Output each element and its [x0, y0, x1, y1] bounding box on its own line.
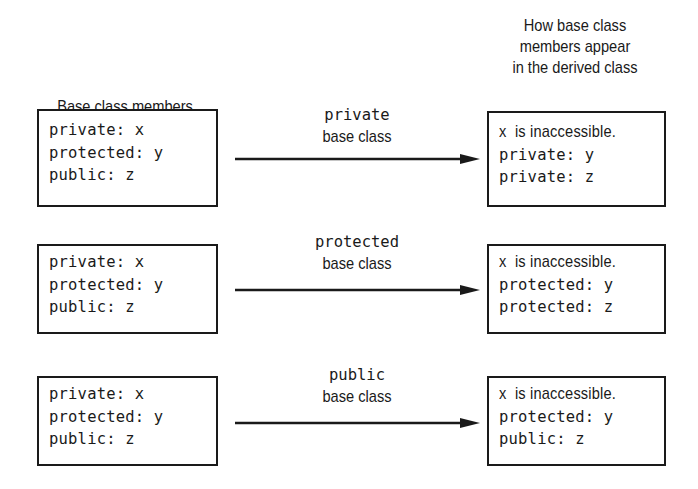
derived-header-line: members appear: [476, 36, 674, 57]
derived-members-box-public: x is inaccessible. protected: y public: …: [487, 376, 666, 466]
member-line: protected: y: [499, 406, 664, 429]
member-line: public: z: [49, 164, 216, 187]
derived-header-line: How base class: [476, 15, 674, 36]
derived-members-box-private: x is inaccessible. private: y private: z: [487, 111, 666, 207]
right-arrow-icon: [232, 417, 482, 429]
member-line: protected: y: [499, 274, 664, 297]
access-keyword: protected: [232, 232, 482, 253]
member-line: private: x: [49, 383, 216, 406]
member-line: protected: z: [499, 296, 664, 319]
arrow-label: protected base class: [232, 232, 482, 274]
member-line: x is inaccessible.: [499, 383, 641, 406]
member-line: protected: y: [49, 142, 216, 165]
inheritance-arrow-private: private base class: [232, 105, 482, 175]
access-keyword: private: [232, 105, 482, 126]
base-members-box-private: private: x protected: y public: z: [37, 109, 218, 207]
base-class-text: base class: [250, 253, 465, 274]
member-line: private: z: [499, 166, 664, 189]
base-members-box-protected: private: x protected: y public: z: [37, 244, 218, 334]
member-line: public: z: [49, 428, 216, 451]
member-line: private: x: [49, 119, 216, 142]
derived-class-header: How base class members appear in the der…: [476, 15, 674, 78]
right-arrow-icon: [232, 153, 482, 165]
arrow-label: private base class: [232, 105, 482, 147]
right-arrow-icon: [232, 284, 482, 296]
member-line: public: z: [49, 296, 216, 319]
derived-members-box-protected: x is inaccessible. protected: y protecte…: [487, 244, 666, 334]
member-line: private: y: [499, 144, 664, 167]
member-line: public: z: [499, 428, 664, 451]
base-class-text: base class: [250, 126, 465, 147]
base-members-box-public: private: x protected: y public: z: [37, 376, 218, 466]
inheritance-arrow-public: public base class: [232, 365, 482, 435]
access-keyword: public: [232, 365, 482, 386]
member-line: x is inaccessible.: [499, 121, 641, 144]
inheritance-arrow-protected: protected base class: [232, 232, 482, 302]
arrow-label: public base class: [232, 365, 482, 407]
base-class-text: base class: [250, 386, 465, 407]
member-line: protected: y: [49, 274, 216, 297]
derived-header-line: in the derived class: [476, 57, 674, 78]
member-line: protected: y: [49, 406, 216, 429]
member-line: x is inaccessible.: [499, 251, 641, 274]
member-line: private: x: [49, 251, 216, 274]
